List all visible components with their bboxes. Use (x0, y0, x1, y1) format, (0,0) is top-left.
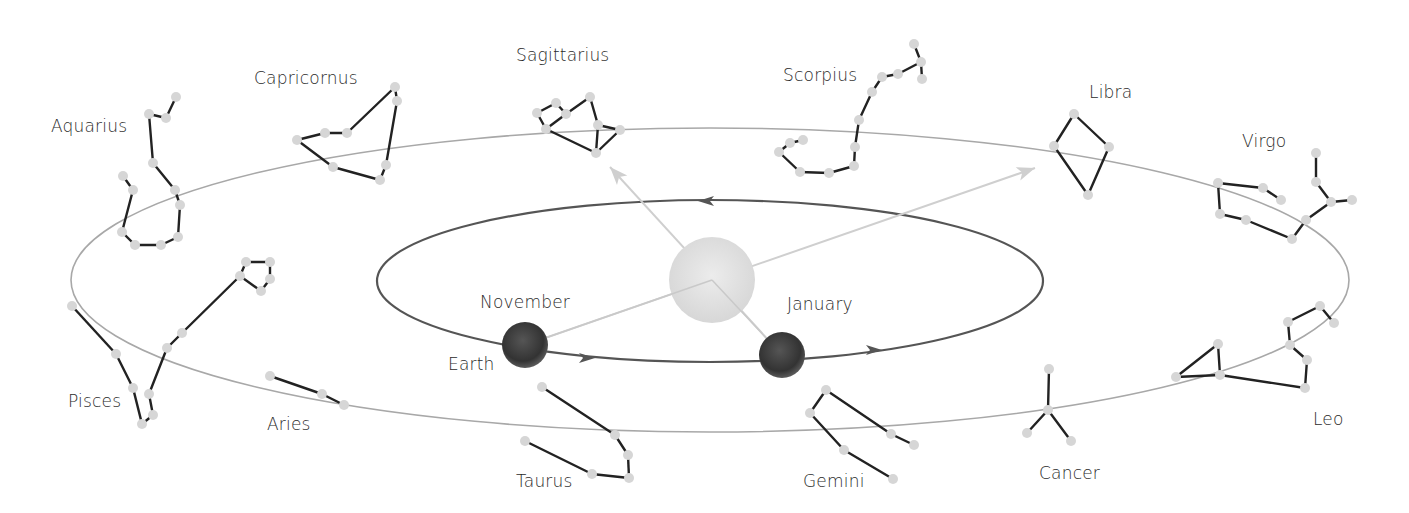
constellation-sagittarius (532, 92, 625, 158)
star-icon (1258, 183, 1268, 193)
star-icon (867, 87, 877, 97)
constellation-virgo (1213, 148, 1357, 244)
label-virgo: Virgo (1242, 133, 1286, 150)
star-icon (585, 92, 595, 102)
constellation-line (1054, 146, 1088, 195)
star-icon (128, 185, 138, 195)
star-icon (241, 257, 251, 267)
star-icon (1043, 405, 1053, 415)
diagram-canvas (0, 0, 1409, 513)
star-icon (144, 109, 154, 119)
star-icon (148, 158, 158, 168)
label-capricornus: Capricornus (254, 70, 358, 87)
star-icon (130, 240, 140, 250)
star-icon (1347, 195, 1357, 205)
star-icon (886, 429, 896, 439)
constellation-line (182, 276, 240, 333)
star-icon (1215, 370, 1225, 380)
constellation-line (1176, 344, 1218, 377)
label-scorpius: Scorpius (783, 67, 857, 84)
star-icon (1285, 340, 1295, 350)
star-icon (117, 227, 127, 237)
star-icon (156, 240, 166, 250)
star-icon (587, 469, 597, 479)
star-icon (1276, 195, 1286, 205)
star-icon (1311, 177, 1321, 187)
constellation-libra (1049, 109, 1114, 200)
star-icon (785, 138, 795, 148)
star-icon (137, 419, 147, 429)
earth-november-icon (502, 322, 548, 368)
star-icon (256, 286, 266, 296)
constellation-line (1246, 220, 1292, 239)
star-icon (839, 445, 849, 455)
label-sagittarius: Sagittarius (516, 47, 609, 64)
star-icon (893, 69, 903, 79)
star-icon (774, 147, 784, 157)
star-icon (591, 148, 601, 158)
star-icon (1311, 148, 1321, 158)
constellation-line (347, 87, 395, 133)
star-icon (561, 109, 571, 119)
constellation-line (386, 101, 397, 165)
star-icon (1044, 364, 1054, 374)
star-icon (821, 385, 831, 395)
star-icon (339, 400, 349, 410)
star-icon (375, 175, 385, 185)
label-pisces: Pisces (68, 393, 121, 410)
star-icon (1104, 142, 1114, 152)
label-gemini: Gemini (803, 473, 865, 490)
star-icon (342, 128, 352, 138)
constellation-line (1088, 147, 1109, 195)
constellation-scorpius (774, 39, 927, 178)
star-icon (1315, 301, 1325, 311)
constellation-line (592, 474, 629, 478)
star-icon (148, 410, 158, 420)
constellation-line (1218, 183, 1263, 188)
constellation-line (149, 348, 167, 394)
star-icon (390, 82, 400, 92)
constellation-line (333, 167, 380, 180)
star-icon (320, 128, 330, 138)
star-icon (1283, 317, 1293, 327)
star-icon (624, 473, 634, 483)
star-icon (916, 57, 926, 67)
constellation-line (525, 441, 592, 474)
star-icon (541, 124, 551, 134)
star-icon (1069, 109, 1079, 119)
star-icon (111, 349, 121, 359)
star-icon (328, 162, 338, 172)
label-earth: Earth (448, 356, 495, 373)
star-icon (888, 474, 898, 484)
constellation-line (1176, 375, 1220, 377)
star-icon (623, 450, 633, 460)
constellation-line (72, 306, 116, 354)
star-icon (532, 108, 542, 118)
star-icon (144, 389, 154, 399)
star-icon (850, 142, 860, 152)
star-icon (265, 274, 275, 284)
star-icon (1213, 178, 1223, 188)
star-icon (795, 167, 805, 177)
star-icon (877, 72, 887, 82)
earth-january-icon (759, 332, 805, 378)
star-icon (1049, 141, 1059, 151)
constellation-line (546, 129, 596, 153)
constellation-line (133, 388, 142, 424)
star-icon (177, 328, 187, 338)
star-icon (128, 383, 138, 393)
constellation-line (1048, 410, 1071, 441)
star-icon (161, 113, 171, 123)
star-icon (1022, 428, 1032, 438)
star-icon (854, 115, 864, 125)
star-icon (292, 135, 302, 145)
constellation-capricornus (292, 82, 402, 185)
star-icon (824, 168, 834, 178)
star-icon (265, 257, 275, 267)
label-aquarius: Aquarius (51, 118, 127, 135)
star-icon (520, 436, 530, 446)
constellation-taurus (520, 382, 634, 483)
constellation-line (153, 163, 175, 190)
constellation-line (1220, 375, 1305, 388)
star-icon (909, 39, 919, 49)
